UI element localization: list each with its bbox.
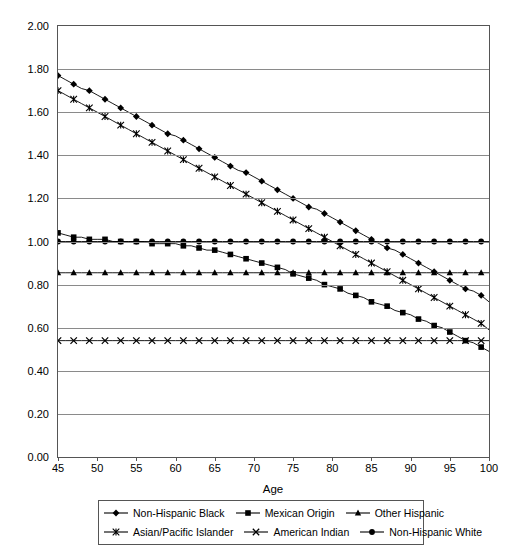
data-point-asterisk [227, 182, 234, 189]
legend-marker-cross-icon [243, 526, 269, 538]
x-tick-label: 45 [38, 462, 78, 474]
data-point-asterisk [368, 260, 375, 267]
y-tick-label: 2.00 [5, 20, 49, 32]
data-point-diamond [149, 122, 156, 129]
data-point-square [369, 299, 375, 305]
data-point-diamond [58, 72, 61, 79]
data-point-asterisk [58, 87, 61, 94]
data-point-square [384, 303, 390, 309]
series-american-indian [58, 337, 489, 343]
data-point-diamond [337, 219, 344, 226]
y-tick-label: 1.40 [5, 149, 49, 161]
data-point-asterisk [211, 173, 218, 180]
data-point-asterisk [180, 156, 187, 163]
data-point-asterisk [117, 122, 124, 129]
legend-item-mexican-origin: Mexican Origin [235, 507, 335, 519]
data-point-diamond [70, 81, 77, 88]
y-tick-label: 0.40 [5, 365, 49, 377]
data-point-asterisk [384, 268, 391, 275]
data-point-asterisk [133, 130, 140, 137]
x-tick-mark [176, 457, 177, 461]
legend-label: Non-Hispanic White [389, 526, 482, 538]
x-tick-label: 65 [195, 462, 235, 474]
x-tick-mark [136, 457, 137, 461]
legend-label: Asian/Pacific Islander [133, 526, 233, 538]
legend-row: Non-Hispanic BlackMexican OriginOther Hi… [103, 504, 419, 523]
legend-label: Non-Hispanic Black [133, 507, 225, 519]
data-point-square [478, 344, 484, 350]
data-point-square [306, 275, 312, 281]
x-tick-label: 95 [430, 462, 470, 474]
legend-label: Other Hispanic [375, 507, 444, 519]
x-tick-label: 80 [312, 462, 352, 474]
gridline [58, 69, 489, 70]
data-point-asterisk [462, 311, 469, 318]
x-tick-label: 85 [351, 462, 391, 474]
data-point-asterisk [70, 96, 77, 103]
gridline [58, 242, 489, 243]
legend-item-non-hispanic-black: Non-Hispanic Black [103, 507, 225, 519]
legend-label: Mexican Origin [265, 507, 335, 519]
gridline [58, 285, 489, 286]
data-point-asterisk [164, 148, 171, 155]
data-point-diamond [399, 251, 406, 258]
data-point-diamond [117, 104, 124, 111]
gridline [58, 198, 489, 199]
y-tick-label: 0.80 [5, 279, 49, 291]
chart-legend: Non-Hispanic BlackMexican OriginOther Hi… [98, 500, 424, 545]
data-point-asterisk [321, 234, 328, 241]
data-point-diamond [415, 260, 422, 267]
data-point-square [259, 260, 265, 266]
data-point-asterisk [274, 208, 281, 215]
data-point-diamond [196, 145, 203, 152]
y-tick-label: 1.20 [5, 192, 49, 204]
legend-marker-triangle-icon [345, 507, 371, 519]
x-tick-label: 70 [234, 462, 274, 474]
data-point-asterisk [431, 294, 438, 301]
x-tick-mark [97, 457, 98, 461]
data-point-asterisk [447, 303, 454, 310]
x-tick-label: 100 [469, 462, 509, 474]
gridline [58, 155, 489, 156]
x-tick-mark [371, 457, 372, 461]
legend-marker-asterisk-icon [103, 526, 129, 538]
data-point-square [58, 230, 61, 236]
legend-item-other-hispanic: Other Hispanic [345, 507, 444, 519]
y-tick-label: 1.80 [5, 63, 49, 75]
x-tick-mark [254, 457, 255, 461]
data-point-diamond [274, 186, 281, 193]
data-point-square [243, 256, 249, 262]
data-point-diamond [133, 113, 140, 120]
series-mexican-origin [58, 230, 489, 351]
series-non-hispanic-black [58, 72, 489, 302]
legend-row: Asian/Pacific IslanderAmerican IndianNon… [103, 523, 419, 542]
x-tick-mark [293, 457, 294, 461]
x-tick-mark [411, 457, 412, 461]
data-point-diamond [227, 163, 234, 170]
data-point-diamond [305, 204, 312, 211]
data-point-square [290, 271, 296, 277]
x-tick-mark [58, 457, 59, 461]
data-point-square [447, 329, 453, 335]
data-point-asterisk [290, 216, 297, 223]
data-point-diamond [86, 87, 93, 94]
data-point-asterisk [400, 277, 407, 284]
legend-item-non-hispanic-white: Non-Hispanic White [359, 526, 482, 538]
data-point-asterisk [478, 320, 485, 327]
data-point-asterisk [149, 139, 156, 146]
data-point-asterisk [102, 113, 109, 120]
series-line [58, 76, 489, 302]
data-point-square [196, 245, 202, 251]
data-point-diamond [384, 245, 391, 252]
gridline [58, 112, 489, 113]
legend-label: American Indian [273, 526, 349, 538]
data-point-square [337, 286, 343, 292]
x-tick-mark [332, 457, 333, 461]
y-tick-label: 0.60 [5, 322, 49, 334]
data-point-diamond [180, 137, 187, 144]
data-point-asterisk [196, 165, 203, 172]
x-tick-label: 75 [273, 462, 313, 474]
data-point-diamond [446, 277, 453, 284]
data-point-diamond [243, 169, 250, 176]
x-tick-mark [489, 457, 490, 461]
